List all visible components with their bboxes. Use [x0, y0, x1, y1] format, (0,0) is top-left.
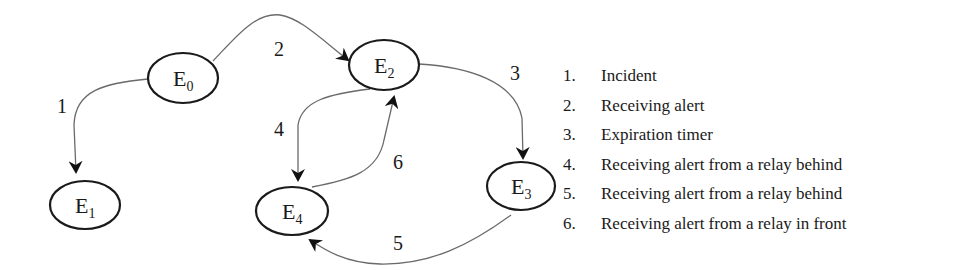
edge-label-6: 6	[393, 151, 403, 173]
node-e1-label: E	[75, 193, 88, 218]
node-e1-sub: 1	[88, 206, 95, 221]
node-e3: E3	[487, 162, 555, 210]
legend-number: 1.	[563, 61, 601, 91]
node-e4-label: E	[282, 199, 295, 224]
legend-text: Receiving alert from a relay in front	[601, 209, 846, 239]
edge-label-1: 1	[57, 95, 67, 117]
node-e2: E2	[349, 40, 419, 90]
node-e0-sub: 0	[186, 79, 193, 94]
legend-text: Receiving alert from a relay behind	[601, 179, 842, 209]
node-e3-sub: 3	[524, 187, 531, 202]
edge-label-2: 2	[274, 38, 284, 60]
edge-label-5: 5	[393, 232, 403, 254]
edge-label-3: 3	[510, 62, 520, 84]
legend-item-6: 6. Receiving alert from a relay in front	[563, 209, 846, 239]
edge-6-e4-to-e2	[312, 97, 394, 187]
legend-item-3: 3. Expiration timer	[563, 120, 846, 150]
legend-item-5: 5. Receiving alert from a relay behind	[563, 179, 846, 209]
legend-item-4: 4. Receiving alert from a relay behind	[563, 150, 846, 180]
legend-list: 1. Incident 2. Receiving alert 3. Expira…	[563, 61, 846, 238]
edge-3-e2-to-e3	[419, 64, 523, 158]
node-e0: E0	[148, 53, 218, 103]
node-e2-label: E	[374, 53, 387, 78]
legend-item-2: 2. Receiving alert	[563, 91, 846, 121]
legend-number: 3.	[563, 120, 601, 150]
node-e4-sub: 4	[295, 212, 302, 227]
legend-text: Receiving alert from a relay behind	[601, 150, 842, 180]
legend-text: Incident	[601, 61, 657, 91]
node-e4: E4	[256, 187, 328, 235]
edge-label-4: 4	[274, 118, 284, 140]
edge-5-e3-to-e4	[310, 215, 511, 264]
legend-number: 4.	[563, 150, 601, 180]
node-e2-sub: 2	[387, 66, 394, 81]
node-e1: E1	[50, 181, 120, 229]
edge-1-e0-to-e1	[74, 79, 148, 172]
edge-4-e2-to-e4	[298, 89, 370, 180]
node-e0-label: E	[173, 66, 186, 91]
legend-text: Expiration timer	[601, 120, 713, 150]
legend-number: 6.	[563, 209, 601, 239]
legend-number: 5.	[563, 179, 601, 209]
node-e3-label: E	[511, 174, 524, 199]
legend-item-1: 1. Incident	[563, 61, 846, 91]
legend-text: Receiving alert	[601, 91, 704, 121]
legend-number: 2.	[563, 91, 601, 121]
